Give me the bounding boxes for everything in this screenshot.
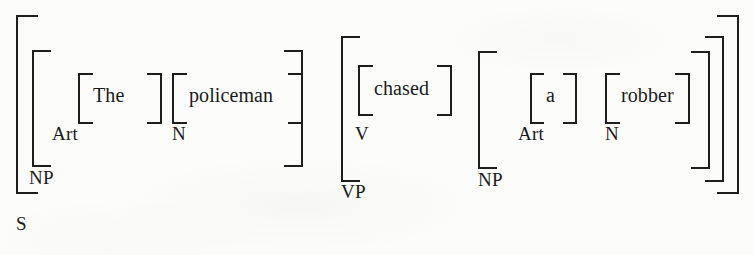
category-label-n2: N	[605, 124, 619, 143]
bracket-open-chased	[358, 65, 373, 116]
category-label-np2: NP	[478, 170, 503, 189]
bracket-open-np1	[32, 50, 51, 167]
bracket-open-np2	[478, 51, 497, 169]
bracket-close-robber	[675, 73, 690, 124]
category-label-vp: VP	[341, 182, 366, 201]
category-label-art1: Art	[52, 124, 78, 143]
bracket-open-the	[78, 73, 93, 124]
bracket-close-a	[563, 73, 577, 124]
bracket-close-chased	[437, 65, 452, 116]
category-label-s: S	[16, 214, 27, 233]
bracket-open-policeman	[172, 73, 187, 124]
category-label-art2: Art	[518, 124, 544, 143]
word-a: a	[546, 85, 555, 105]
bracket-close-np2	[691, 51, 710, 169]
category-label-np1: NP	[29, 168, 54, 187]
bracket-open-robber	[605, 73, 620, 124]
word-robber: robber	[621, 85, 674, 105]
labeled-bracketing-diagram: S NP The Art policeman N VP chased V NP …	[0, 0, 754, 255]
category-label-n1: N	[172, 124, 186, 143]
word-policeman: policeman	[189, 85, 273, 105]
bracket-close-policeman	[288, 73, 303, 124]
category-label-v: V	[355, 124, 369, 143]
word-chased: chased	[374, 78, 429, 98]
bracket-close-the	[147, 73, 162, 124]
bracket-open-a	[530, 73, 544, 124]
word-the: The	[93, 85, 124, 105]
